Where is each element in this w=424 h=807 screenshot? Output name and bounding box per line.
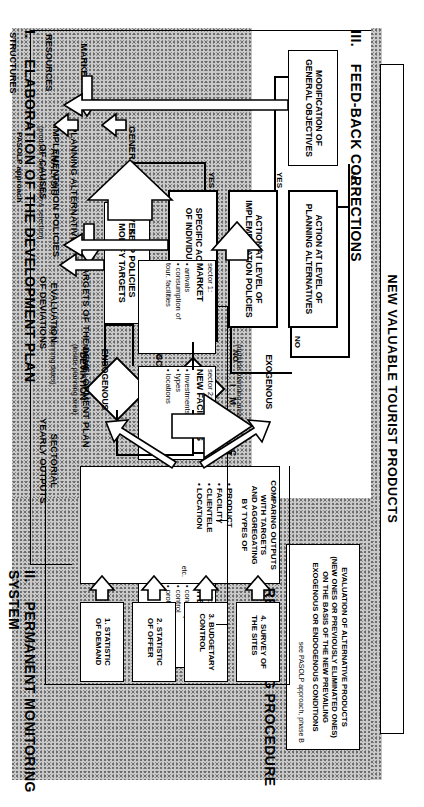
statistic-3-label: 3. BUDGETARY CONTROL [196,611,215,672]
sector-box-1: sector 1: MARKET arrivals consumption of… [138,260,216,354]
monitor-frame-right [44,684,290,685]
sector-bracket-h [227,306,228,626]
sector-2-item-1: types [173,369,182,441]
diagram-frame: NEW VALUABLE TOURIST PRODUCTS III. FEED-… [0,0,424,807]
label-evaluation-of-deviations: EVALUATION OF DEVIATIONS [37,276,60,349]
sector-1-name: MARKET [195,263,205,319]
connector-no-2v [292,356,350,358]
input-item-2: STRUCTURES [7,32,19,94]
comparing-item-3: LOCATION [194,483,204,581]
connector-yes-2v [134,162,206,164]
connector-no-4h [192,342,194,370]
box-action-planning-alternatives: ACTION AT LEVEL OF PLANNING ALTERNATIVES [288,190,338,328]
comparing-title: COMPARING OUTPUTS WITH TARGETS AND AGGRE… [240,469,278,581]
endogenous-sub: (inside planning area) [70,344,79,415]
connector-no-3 [230,328,232,374]
connector-yes-2h [132,162,134,204]
box-modification-label: MODIFICATION OF GENERAL OBJECTIVES [302,57,323,159]
box-evaluation-alternative-products: EVALUATION OF ALTERNATIVE PRODUCTS (NEW … [286,544,360,750]
monitor-frame-top [289,466,290,684]
label-endogenous: ENDOGENOUS (inside planning area) [50,344,130,415]
sector-2-item-2: locations [164,369,173,441]
section-3-title: III. FEED-BACK CORRECTIONS [348,30,364,262]
sector-1-item-1: consumption of tour. facilities [164,263,183,319]
sector-bracket-v3 [216,520,228,521]
connector-yes-3 [132,324,134,366]
label-sectorial-yearly-outputs: SECTORIAL YEARLY OUTPUTS [37,418,60,504]
comparing-etc: etc. [180,469,188,581]
box-action-policies-label: ACTION AT LEVEL OF IMPLEMENTATION POLICI… [242,198,263,319]
comparing-item-2: CLIENTELE [204,483,214,581]
edge-label-yes-2: YES [207,172,216,188]
input-item-0: MARKET [77,32,89,94]
sector-2-name: NEW FACILITIES [195,369,205,441]
statistic-4-label: 4. SURVEY OF THE SITES [248,613,267,670]
input-market-resources-structures: MARKET RESOURCES STRUCTURES [0,32,112,94]
connector-no-1 [348,164,350,208]
diagram-canvas: NEW VALUABLE TOURIST PRODUCTS III. FEED-… [12,14,412,794]
banner-new-valuable-tourist-products: NEW VALUABLE TOURIST PRODUCTS [380,64,404,734]
label-pasolp-approach: PASOLP approach [15,132,24,202]
connector-minor-v [104,324,134,326]
connector-yes-1v [274,76,288,78]
connector-frame-bottom-right [30,192,31,564]
input-item-1: RESOURCES [42,32,54,94]
comparing-item-1: FACILITY [214,483,224,581]
replanning-note: see PASOLP approach, phase B [296,639,306,744]
exogenous-title: EXOGENOUS [263,344,273,420]
connector-no-4 [192,410,194,454]
statistic-2-label: 2. STATISTIC OF OFFER [144,616,163,668]
box-action-implementation-policies: ACTION AT LEVEL OF IMPLEMENTATION POLICI… [228,190,278,328]
edge-label-no-1: NO [349,172,358,184]
section-2-num: II. [22,570,38,583]
connector-frame-right [30,564,72,565]
sector-bracket-v2 [216,412,228,413]
comparing-item-0: PRODUCT [224,483,234,581]
sector-bracket-v4 [216,624,228,625]
sector-bracket-v1 [216,306,228,307]
connector-minor [104,324,106,366]
section-3-label: FEED-BACK CORRECTIONS [348,63,364,261]
box-comparing-outputs: COMPARING OUTPUTS WITH TARGETS AND AGGRE… [80,466,280,584]
connector-major [116,410,118,456]
monitor-frame-bottom [45,466,46,684]
connector-frame-bottom-left [30,30,31,130]
statistic-box-4: 4. SURVEY OF THE SITES [236,602,280,682]
section-3-num: III. [348,30,364,47]
connector-yes-2 [204,162,206,192]
section-2-label: PERMANENT MONITORING SYSTEM [6,570,38,793]
connector-yes-1 [274,76,276,192]
connector-no-2 [290,328,292,358]
statistic-box-3: 3. BUDGETARY CONTROL [184,602,228,682]
connector-frame-left [31,30,371,31]
connector-major-v [116,454,194,456]
label-analysis-of-causes: ANALYSIS OF CAUSES [37,144,60,199]
connector-no-3v [232,372,292,374]
connector-no-2h [348,206,350,358]
statistic-box-2: 2. STATISTIC OF OFFER [132,602,176,682]
edge-label-yes-1: YES [275,172,284,188]
planning-alternatives-title: PLANNING ALTERNATIVES [68,126,80,249]
banner-label: NEW VALUABLE TOURIST PRODUCTS [384,272,400,525]
exogenous-sub: (outside planning area) [234,344,243,420]
box-action-alternatives-label: ACTION AT LEVEL OF PLANNING ALTERNATIVES [302,201,323,315]
sector-box-2: sector 2: NEW FACILITIES investments typ… [138,366,216,460]
statistic-1-label: 1. STATISTIC OF DEMAND [92,616,111,668]
statistic-box-1: 1. STATISTIC OF DEMAND [80,602,124,682]
section-2-title: II. PERMANENT MONITORING SYSTEM [6,570,38,794]
sector-2-num: sector 2: [206,369,215,441]
box-evaluation-products-label: EVALUATION OF ALTERNATIVE PRODUCTS (NEW … [310,554,350,740]
edge-label-no-2: NO [293,336,302,348]
box-modification-general-objectives: MODIFICATION OF GENERAL OBJECTIVES [288,50,338,166]
sector-1-num: sector 1: [206,263,215,319]
sector-1-item-0: arrivals [183,263,192,319]
